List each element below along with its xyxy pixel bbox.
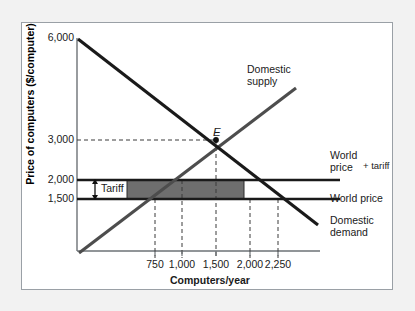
world-price-tariff-label-line2: price	[330, 162, 353, 173]
figure-root: Price of computers ($/computer) 6,000 3,…	[0, 0, 415, 311]
world-price-tariff-label-line1: World	[330, 150, 357, 161]
domestic-supply-curve	[79, 88, 296, 253]
tariff-revenue-area	[127, 180, 244, 199]
x-tick-label-2250: 2,250	[257, 259, 299, 270]
y-tick-label-6000: 6,000	[30, 32, 74, 43]
domestic-demand-label-line1: Domestic	[330, 215, 374, 226]
y-axis-title: Price of computers ($/computer)	[24, 23, 36, 185]
y-tick-label-3000: 3,000	[30, 134, 74, 145]
equilibrium-label: E	[213, 126, 221, 138]
y-tick-label-1500: 1,500	[30, 193, 74, 204]
x-axis-title: Computers/year	[150, 275, 270, 286]
domestic-demand-label-line2: demand	[330, 227, 368, 238]
world-price-label: World price	[330, 193, 383, 204]
y-axis-title-wrapper: Price of computers ($/computer)	[20, 19, 38, 189]
tariff-label: Tariff	[101, 183, 124, 194]
y-tick-label-2000: 2,000	[30, 174, 74, 185]
domestic-supply-label-line1: Domestic	[247, 64, 291, 75]
world-price-tariff-label-suffix: + tariff	[363, 161, 390, 171]
domestic-supply-label-line2: supply	[247, 76, 277, 87]
